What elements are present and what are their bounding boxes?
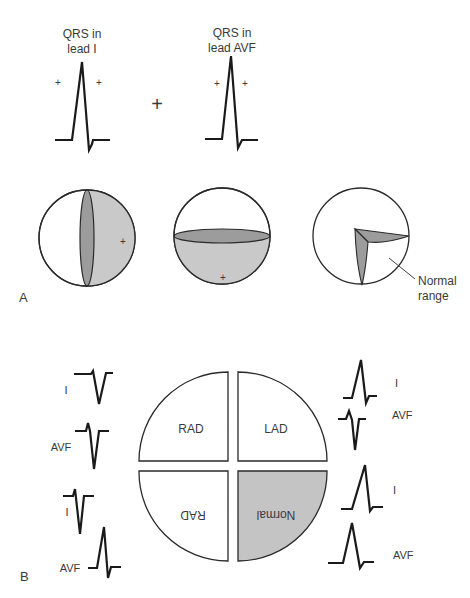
qrs-waveform-lead-avf bbox=[205, 56, 258, 148]
waveform-left-avf-positive bbox=[88, 527, 121, 578]
quadrant-lower-left-rad: RAD bbox=[139, 471, 228, 561]
sphere-lead-i: + bbox=[39, 190, 135, 286]
lead-label-avf: AVF bbox=[392, 409, 413, 421]
quadrant-upper-right-lad: LAD bbox=[238, 372, 327, 461]
qrs-lead-avf-title-line1: QRS in bbox=[213, 26, 252, 40]
plus-sign: + bbox=[120, 236, 126, 247]
qrs-lead-i-title-line2: lead I bbox=[67, 42, 96, 56]
quadrant-label-rad-inverted: RAD bbox=[180, 508, 206, 522]
plus-operator: + bbox=[151, 93, 163, 115]
quadrant-label-normal-inverted: Normal bbox=[257, 508, 296, 522]
plus-sign: + bbox=[242, 78, 248, 89]
panel-b: RAD LAD RAD Normal I AVF I AVF I AVF I bbox=[20, 360, 414, 584]
lead-label-avf: AVF bbox=[393, 549, 414, 561]
plus-sign: + bbox=[96, 77, 102, 88]
panel-b-label: B bbox=[20, 569, 29, 584]
plus-sign: + bbox=[220, 272, 226, 283]
waveform-right-i-positive bbox=[341, 465, 383, 511]
waveform-right-avf-negative bbox=[338, 411, 366, 450]
quadrant-lower-right-normal: Normal bbox=[238, 471, 327, 561]
panel-a-label: A bbox=[19, 290, 28, 305]
normal-range-label-line2: range bbox=[418, 289, 449, 303]
qrs-waveform-lead-i bbox=[55, 62, 110, 150]
waveform-right-i-positive bbox=[343, 360, 377, 403]
lead-label-avf: AVF bbox=[60, 562, 81, 574]
quadrant-label-rad: RAD bbox=[178, 422, 204, 436]
lead-label-i: I bbox=[395, 377, 398, 389]
qrs-lead-avf-title-line2: lead AVF bbox=[208, 41, 256, 55]
lead-label-avf: AVF bbox=[51, 441, 72, 453]
quadrant-label-lad: LAD bbox=[264, 422, 288, 436]
waveform-left-avf-negative bbox=[75, 423, 109, 469]
sphere-normal-range: Normal range bbox=[313, 188, 457, 303]
plus-sign: + bbox=[55, 77, 61, 88]
panel-a: QRS in lead I + + + QRS in lead AVF + + … bbox=[19, 26, 457, 305]
plus-sign: + bbox=[214, 78, 220, 89]
normal-range-label-line1: Normal bbox=[418, 274, 457, 288]
lead-label-i: I bbox=[65, 506, 68, 518]
qrs-lead-i-title-line1: QRS in bbox=[63, 27, 102, 41]
axis-diagram: QRS in lead I + + + QRS in lead AVF + + … bbox=[0, 0, 470, 598]
sphere-lead-avf: + bbox=[174, 188, 270, 284]
waveform-right-avf-positive bbox=[328, 523, 374, 568]
lead-label-i: I bbox=[64, 384, 67, 396]
quadrant-upper-left-rad: RAD bbox=[139, 372, 228, 461]
lead-label-i: I bbox=[393, 484, 396, 496]
waveform-left-i-negative bbox=[74, 371, 113, 404]
